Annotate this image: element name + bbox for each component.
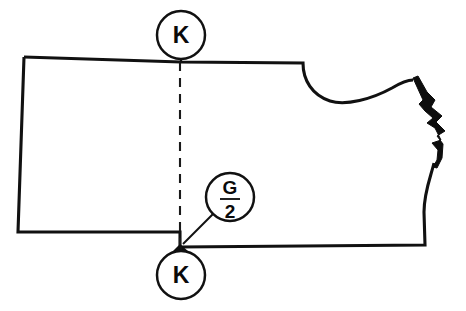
bottom-marker-label: K	[173, 262, 190, 288]
pattern-outline-upper	[24, 57, 413, 103]
dimension-numerator-label: G	[223, 177, 238, 198]
top-marker-label: K	[173, 22, 190, 48]
top-marker-callout[interactable]: K	[157, 11, 205, 59]
pattern-diagram-svg: K K G 2	[0, 0, 466, 311]
dimension-leader-line	[183, 214, 213, 244]
pattern-diagram-canvas: K K G 2	[0, 0, 466, 311]
dimension-marker-callout[interactable]: G 2	[206, 173, 254, 222]
bottom-marker-callout[interactable]: K	[157, 251, 205, 299]
notched-seam-edge	[413, 76, 445, 168]
dimension-denominator-label: 2	[225, 201, 236, 222]
